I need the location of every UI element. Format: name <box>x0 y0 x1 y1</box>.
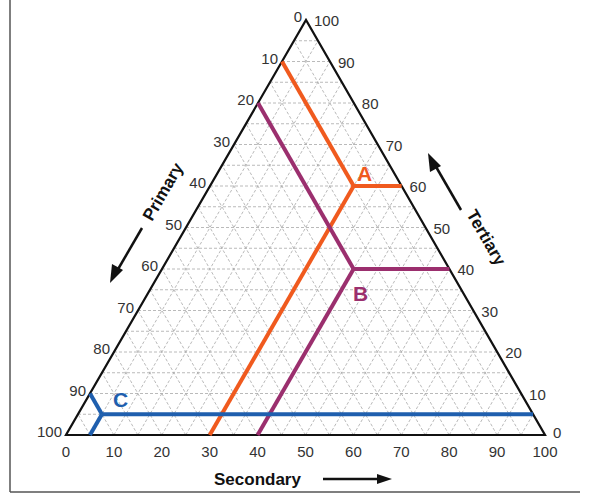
svg-text:50: 50 <box>165 216 182 233</box>
secondary-axis-label: Secondary <box>214 470 301 489</box>
svg-text:70: 70 <box>393 443 410 460</box>
svg-text:50: 50 <box>434 220 451 237</box>
svg-text:70: 70 <box>117 299 134 316</box>
svg-text:20: 20 <box>237 91 254 108</box>
svg-text:100: 100 <box>37 423 62 440</box>
svg-text:10: 10 <box>261 50 278 67</box>
ternary-chart: 0102030405060708090100010203040506070809… <box>0 0 590 504</box>
point-label-a: A <box>357 162 372 185</box>
svg-text:90: 90 <box>69 382 86 399</box>
point-label-b: B <box>353 282 368 305</box>
primary-arrow-icon <box>110 228 142 283</box>
svg-text:30: 30 <box>213 133 230 150</box>
tertiary-arrow-icon <box>428 153 461 210</box>
svg-text:100: 100 <box>314 12 339 29</box>
svg-text:40: 40 <box>189 174 206 191</box>
svg-text:0: 0 <box>62 443 70 460</box>
svg-text:90: 90 <box>338 54 355 71</box>
svg-text:10: 10 <box>106 443 123 460</box>
svg-text:40: 40 <box>457 261 474 278</box>
svg-text:20: 20 <box>153 443 170 460</box>
svg-text:90: 90 <box>489 443 506 460</box>
svg-text:80: 80 <box>441 443 458 460</box>
secondary-arrow-icon <box>323 474 392 484</box>
svg-text:10: 10 <box>529 386 546 403</box>
svg-text:60: 60 <box>345 443 362 460</box>
svg-text:20: 20 <box>505 344 522 361</box>
point-label-c: C <box>113 388 128 411</box>
svg-text:80: 80 <box>93 340 110 357</box>
svg-text:40: 40 <box>249 443 266 460</box>
svg-text:30: 30 <box>481 303 498 320</box>
svg-text:0: 0 <box>294 8 302 25</box>
svg-text:80: 80 <box>362 95 379 112</box>
svg-text:70: 70 <box>386 137 403 154</box>
svg-text:0: 0 <box>553 424 561 441</box>
svg-text:30: 30 <box>201 443 218 460</box>
svg-text:50: 50 <box>297 443 314 460</box>
svg-text:100: 100 <box>532 443 557 460</box>
svg-text:60: 60 <box>410 178 427 195</box>
svg-text:60: 60 <box>141 257 158 274</box>
tertiary-axis-label: Tertiary <box>463 207 510 270</box>
primary-axis-label: Primary <box>139 159 187 224</box>
